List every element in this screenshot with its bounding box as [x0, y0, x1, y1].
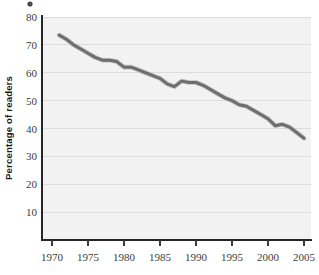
- x-tick-label-1980: 1980: [113, 251, 136, 263]
- y-tick-label-40: 40: [26, 123, 38, 135]
- y-tick-label-80: 80: [26, 11, 38, 23]
- corner-marker-dot: [27, 1, 32, 6]
- chart-container: 80 70 60 50 40 30 20 10 1970 1975 1980 1…: [0, 0, 319, 275]
- x-tick-label-1970: 1970: [41, 251, 64, 263]
- x-tick-label-1985: 1985: [149, 251, 172, 263]
- x-tick-label-2000: 2000: [257, 251, 280, 263]
- y-axis-label: Percentage of readers: [3, 76, 14, 180]
- y-tick-label-10: 10: [26, 206, 38, 218]
- y-tick-label-70: 70: [26, 39, 38, 51]
- y-tick-label-30: 30: [26, 150, 38, 162]
- x-tick-label-1990: 1990: [185, 251, 208, 263]
- x-tick-label-1995: 1995: [221, 251, 244, 263]
- y-tick-label-20: 20: [26, 178, 38, 190]
- line-chart: 80 70 60 50 40 30 20 10 1970 1975 1980 1…: [0, 0, 319, 275]
- y-tick-label-60: 60: [26, 67, 38, 79]
- y-tick-label-50: 50: [26, 95, 38, 107]
- x-tick-label-2005: 2005: [293, 251, 316, 263]
- x-tick-label-1975: 1975: [77, 251, 100, 263]
